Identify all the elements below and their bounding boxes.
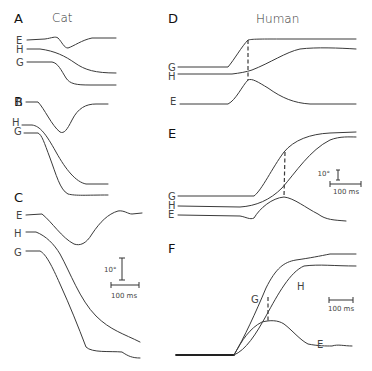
panel-label-a: A	[14, 11, 23, 26]
trace-head	[27, 49, 116, 73]
trace-label-g: G	[251, 294, 259, 305]
trace-label-g: G	[16, 57, 24, 68]
panel-f: F G H E 100 ms	[168, 241, 356, 355]
panel-label-c: C	[14, 190, 23, 205]
figure: Cat Human A E H G B E H G C E H G 10°	[0, 0, 372, 371]
panel-label-e: E	[168, 126, 176, 141]
trace-gaze	[27, 62, 116, 85]
peak-marker-dashed-line	[284, 152, 285, 197]
trace-eye	[234, 321, 352, 355]
trace-gaze	[178, 132, 356, 196]
scale-bar-cat: 10° 100 ms	[104, 258, 139, 300]
trace-head	[178, 48, 356, 74]
trace-label-g: G	[14, 126, 22, 137]
trace-label-h: H	[168, 71, 176, 82]
trace-label-g: G	[14, 247, 22, 258]
trace-label-e: E	[16, 210, 22, 221]
trace-label-h: H	[297, 281, 305, 292]
angle-scale-label: 10°	[318, 170, 330, 178]
panel-b: B E H G	[12, 94, 108, 195]
scale-bar-human-e: 10° 100 ms	[318, 170, 361, 196]
panel-label-d: D	[168, 11, 178, 26]
angle-scale-label: 10°	[104, 266, 116, 274]
panel-e: E G H E 10° 100 ms	[168, 126, 361, 221]
trace-eye	[180, 79, 356, 104]
trace-head	[26, 232, 140, 342]
trace-label-e: E	[317, 339, 323, 350]
trace-eye	[178, 197, 346, 221]
panel-label-f: F	[168, 241, 175, 256]
group-title-cat: Cat	[52, 11, 73, 25]
trace-gaze	[24, 133, 108, 195]
time-scale-label: 100 ms	[333, 188, 359, 196]
trace-label-h: H	[16, 44, 24, 55]
panel-c: C E H G 10° 100 ms	[14, 190, 142, 358]
trace-gaze	[26, 251, 140, 358]
trace-eye	[27, 37, 116, 48]
time-scale-label: 100 ms	[111, 292, 137, 300]
trace-eye	[26, 211, 142, 245]
time-scale-label: 100 ms	[328, 305, 354, 313]
trace-label-h: H	[14, 228, 22, 239]
trace-label-e: E	[168, 209, 174, 220]
group-title-human: Human	[256, 12, 299, 26]
trace-label-e: E	[170, 96, 176, 107]
trace-label-e: E	[16, 97, 22, 108]
scale-bar-human-f: 100 ms	[328, 297, 354, 313]
trace-head	[22, 125, 108, 184]
